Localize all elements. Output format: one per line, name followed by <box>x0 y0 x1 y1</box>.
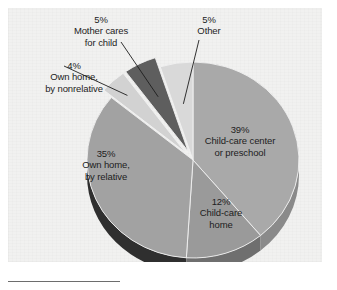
footnote-separator <box>8 281 120 282</box>
slice-percent: 12% <box>183 196 259 207</box>
slice-name-line-1: Own home, <box>22 71 126 82</box>
slice-name-line-1: Other <box>186 25 232 36</box>
slice-percent: 5% <box>58 14 144 25</box>
slice-name-line-2: by relative <box>62 171 150 182</box>
figure-root: 5% Mother cares for child 5% Other 4% Ow… <box>0 0 337 290</box>
slice-label-mother-cares-for-child: 5% Mother cares for child <box>58 14 144 48</box>
slice-name-line-2: or preschool <box>186 147 294 158</box>
slice-name-line-2: for child <box>58 37 144 48</box>
slice-percent: 5% <box>186 14 232 25</box>
slice-label-own-home-by-nonrelative: 4% Own home, by nonrelative <box>22 60 126 94</box>
slice-name-line-1: Child-care center <box>186 135 294 146</box>
slice-name-line-1: Own home, <box>62 159 150 170</box>
slice-label-other: 5% Other <box>186 14 232 37</box>
slice-name-line-2: by nonrelative <box>22 83 126 94</box>
slice-name-line-1: Mother cares <box>58 25 144 36</box>
slice-label-own-home-by-relative: 35% Own home, by relative <box>62 148 150 182</box>
slice-name-line-2: home <box>183 219 259 230</box>
slice-percent: 35% <box>62 148 150 159</box>
slice-label-child-care-center-or-preschool: 39% Child-care center or preschool <box>186 124 294 158</box>
slice-percent: 4% <box>22 60 126 71</box>
slice-label-child-care-home: 12% Child-care home <box>183 196 259 230</box>
slice-percent: 39% <box>186 124 294 135</box>
slice-name-line-1: Child-care <box>183 207 259 218</box>
